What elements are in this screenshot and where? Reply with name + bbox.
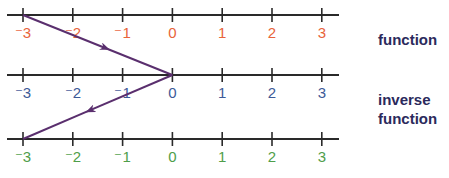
number-line-inverse-range: ⁻3⁻2⁻10123: [7, 132, 339, 165]
mapping-arrow-inverse: [23, 75, 172, 139]
tick-label: 0: [168, 24, 176, 41]
number-line-domain: ⁻3⁻2⁻10123: [7, 8, 339, 41]
arrow-segment: [23, 15, 105, 48]
tick-label: ⁻3: [15, 148, 31, 165]
tick-label: 3: [318, 84, 326, 101]
tick-label: ⁻3: [15, 84, 31, 101]
mapping-arrow-function: [23, 15, 172, 75]
tick-label: 1: [218, 24, 226, 41]
function-label: function: [378, 31, 437, 48]
number-line-diagram: ⁻3⁻2⁻10123⁻3⁻2⁻10123⁻3⁻2⁻10123 function …: [0, 0, 449, 178]
tick-label: 1: [218, 148, 226, 165]
arrow-segment: [90, 75, 172, 110]
tick-label: ⁻3: [15, 24, 31, 41]
tick-label: 2: [268, 148, 276, 165]
number-line-range: ⁻3⁻2⁻10123: [7, 68, 339, 101]
tick-label: ⁻2: [65, 148, 81, 165]
tick-label: 2: [268, 24, 276, 41]
tick-label: 3: [318, 148, 326, 165]
inverse-function-label-line2: function: [378, 110, 437, 127]
arrow-segment: [23, 110, 90, 139]
tick-label: ⁻2: [65, 84, 81, 101]
tick-label: 3: [318, 24, 326, 41]
inverse-function-label-line1: inverse: [378, 91, 431, 108]
tick-label: 2: [268, 84, 276, 101]
arrow-segment: [105, 48, 172, 75]
tick-label: 1: [218, 84, 226, 101]
tick-label: 0: [168, 148, 176, 165]
tick-label: ⁻1: [114, 24, 130, 41]
tick-label: 0: [168, 84, 176, 101]
tick-label: ⁻1: [114, 148, 130, 165]
